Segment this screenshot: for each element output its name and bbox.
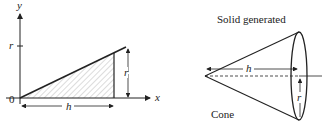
cone-diagram [205, 32, 322, 120]
origin-label: 0 [9, 94, 15, 105]
y-axis-label: y [17, 0, 22, 11]
solid-title: Solid generated [217, 14, 286, 25]
cone-label: Cone [211, 109, 234, 120]
cone-height-label: h [246, 63, 252, 74]
height-dimension-label: r [124, 67, 128, 78]
region-diagram [6, 14, 150, 106]
width-dimension-label: h [66, 101, 72, 112]
x-axis-label: x [155, 92, 160, 103]
r-tick-label: r [9, 40, 13, 51]
cone-radius-label: r [297, 92, 301, 103]
